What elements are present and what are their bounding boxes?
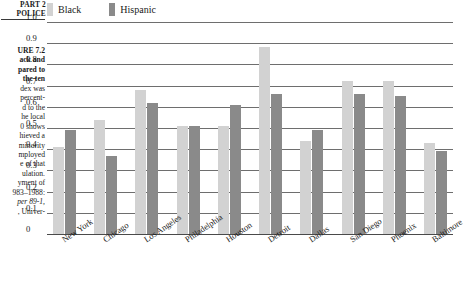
caption-line: mployed <box>0 150 45 159</box>
bar-group <box>218 22 241 234</box>
bar <box>135 90 146 234</box>
bar <box>230 105 241 234</box>
bar <box>383 81 394 234</box>
legend-swatch-icon <box>47 3 53 16</box>
bar-group <box>259 22 282 234</box>
x-axis-labels: New YorkChicagoLos AngelesPhiladelphiaHo… <box>47 236 453 291</box>
bar <box>259 47 270 234</box>
bar <box>342 81 353 234</box>
bar <box>106 156 117 234</box>
chart-legend: BlackHispanic <box>47 0 156 19</box>
legend-label: Black <box>58 4 81 15</box>
bar <box>424 143 435 234</box>
bar <box>53 147 64 234</box>
bar-group <box>342 22 365 234</box>
bar <box>312 130 323 234</box>
bar-group <box>94 22 117 234</box>
y-axis-tick-label: 0.1 <box>26 203 44 213</box>
legend-swatch-icon <box>109 3 115 16</box>
y-axis-tick-label: 0.5 <box>26 118 44 128</box>
y-axis-tick-label: 0.3 <box>26 160 44 170</box>
y-axis-tick-label: 0.8 <box>26 54 44 64</box>
y-axis-tick-label: 1.0 <box>26 12 44 22</box>
y-axis-tick-label: 0.4 <box>26 139 44 149</box>
y-axis-tick-label: 0.6 <box>26 97 44 107</box>
bar <box>271 94 282 234</box>
legend-item: Black <box>47 3 81 16</box>
legend-item: Hispanic <box>109 3 156 16</box>
bar <box>189 126 200 234</box>
bar <box>300 141 311 234</box>
y-axis-tick-label: 0.2 <box>26 182 44 192</box>
bar <box>395 96 406 234</box>
bar-group <box>383 22 406 234</box>
bar <box>65 130 76 234</box>
bar-groups <box>47 22 453 234</box>
bar-group <box>177 22 200 234</box>
chart-plot-area: 00.10.20.30.40.50.60.70.80.91.0 <box>47 22 453 234</box>
bar <box>354 94 365 234</box>
bar-group <box>300 22 323 234</box>
legend-label: Hispanic <box>120 4 156 15</box>
bar-group <box>135 22 158 234</box>
y-axis-tick-label: 0 <box>26 224 44 234</box>
y-axis-tick-label: 0.7 <box>26 76 44 86</box>
bar <box>147 103 158 234</box>
bar-group <box>424 22 447 234</box>
bar <box>94 120 105 234</box>
bar-group <box>53 22 76 234</box>
bar <box>436 151 447 234</box>
caption-line: pared to <box>0 65 45 74</box>
y-axis-tick-label: 0.9 <box>26 33 44 43</box>
